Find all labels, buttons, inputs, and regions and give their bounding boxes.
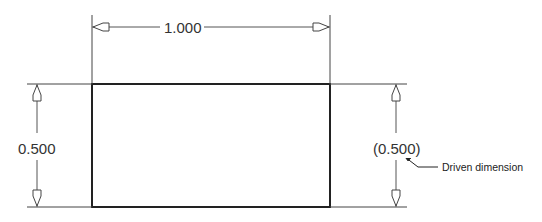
arrowhead-up-icon (392, 85, 400, 101)
part-rectangle (92, 84, 330, 207)
arrowhead-right-icon (313, 23, 329, 31)
drawing-lines (0, 0, 542, 222)
driven-dimension-label: (0.500) (373, 139, 421, 158)
arrowhead-down-icon (33, 190, 41, 206)
arrowhead-down-icon (392, 190, 400, 206)
arrowhead-up-icon (33, 85, 41, 101)
height-dimension-label: 0.500 (18, 139, 56, 158)
arrowhead-left-icon (93, 23, 109, 31)
driven-dimension-note: Driven dimension (442, 162, 523, 173)
drawing-canvas: 1.000 0.500 (0.500) Driven dimension (0, 0, 542, 222)
width-dimension-label: 1.000 (162, 20, 204, 35)
